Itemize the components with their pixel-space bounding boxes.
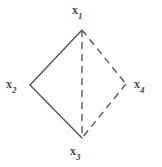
node-label-x3: x3: [70, 145, 81, 160]
edge-x2-x3: [30, 85, 82, 138]
node-label-x2: x2: [6, 78, 17, 93]
node-label-x1: x1: [72, 4, 83, 19]
node-label-x4: x4: [134, 78, 145, 93]
node-label-x2-subscript: 2: [12, 85, 17, 95]
node-label-x3-subscript: 3: [76, 152, 81, 162]
node-label-x4-subscript: 4: [140, 85, 145, 95]
edge-x1-x4: [82, 30, 126, 84]
edge-x1-x2: [30, 30, 82, 85]
edge-group: [30, 30, 126, 138]
edge-x4-x3: [82, 84, 126, 138]
node-label-x1-subscript: 1: [78, 11, 83, 21]
graph-diagram-figure: x1 x2 x3 x4: [0, 0, 162, 167]
